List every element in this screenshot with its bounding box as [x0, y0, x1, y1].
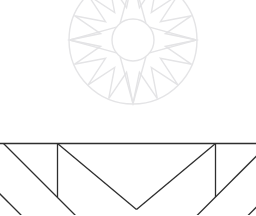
v-right-arm: [137, 144, 216, 210]
mandala-inner-circle: [112, 19, 154, 61]
mandala-star-zigzag: [70, 0, 197, 104]
mandala-cardinal-point: [120, 57, 146, 104]
right-outer-diagonal: [197, 156, 256, 215]
mandala-outer-circle: [69, 0, 197, 104]
mandala-cardinal-point: [70, 27, 117, 53]
page-canvas: [0, 0, 256, 215]
mandala-cardinal-point: [150, 27, 197, 53]
line-art-scene: [0, 0, 256, 215]
left-outer-diagonal: [4, 144, 76, 216]
left-corner-diagonal: [0, 194, 22, 216]
v-left-arm: [58, 144, 137, 210]
right-corner-diagonal: [248, 207, 256, 215]
